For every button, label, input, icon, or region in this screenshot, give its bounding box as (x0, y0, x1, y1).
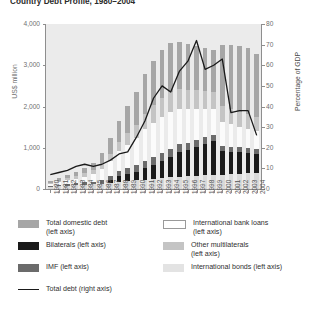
legend-label: International bonds (left axis) (191, 263, 282, 272)
x-tick (162, 190, 163, 193)
legend-bilaterals[interactable]: Bilaterals (left axis) (18, 241, 106, 250)
x-tick (179, 190, 180, 193)
legend-label: IMF (left axis) (46, 263, 89, 272)
x-tick-label: 2004 (259, 180, 266, 194)
legend-swatch (18, 220, 39, 228)
legend-label: Bilaterals (left axis) (46, 241, 106, 250)
legend-total-debt-line[interactable]: Total debt (right axis) (18, 285, 112, 294)
x-tick (205, 190, 206, 193)
chart-figure: Country Debt Profile, 1980–2004 4,0003,0… (0, 0, 314, 317)
x-tick (128, 190, 129, 193)
legend-swatch (18, 242, 39, 250)
legend-swatch (163, 220, 186, 229)
x-tick (257, 190, 258, 193)
legend-swatch (163, 264, 184, 272)
legend-imf[interactable]: IMF (left axis) (18, 263, 89, 272)
x-tick (231, 190, 232, 193)
x-tick (50, 190, 51, 193)
x-tick (248, 190, 249, 193)
x-tick (214, 190, 215, 193)
x-tick (171, 190, 172, 193)
x-tick (188, 190, 189, 193)
x-tick (145, 190, 146, 193)
legend-international-bank-loans[interactable]: International bank loans(left axis) (163, 219, 268, 236)
legend-swatch (163, 242, 184, 250)
legend-swatch (18, 264, 39, 272)
legend-label: Total debt (right axis) (46, 285, 112, 294)
x-tick (59, 190, 60, 193)
x-tick (119, 190, 120, 193)
x-tick (240, 190, 241, 193)
legend-line-swatch (18, 285, 39, 293)
x-tick (68, 190, 69, 193)
legend-international-bonds[interactable]: International bonds (left axis) (163, 263, 282, 272)
x-tick (197, 190, 198, 193)
x-tick (111, 190, 112, 193)
legend-label: International bank loans(left axis) (193, 219, 268, 236)
x-tick (76, 190, 77, 193)
x-tick (102, 190, 103, 193)
legend-total-domestic-debt[interactable]: Total domestic debt(left axis) (18, 219, 107, 236)
x-tick (136, 190, 137, 193)
line-total-debt (50, 41, 256, 175)
legend-label: Total domestic debt(left axis) (46, 219, 107, 236)
x-tick (85, 190, 86, 193)
legend-label: Other multilaterals(left axis) (191, 241, 249, 258)
x-tick (222, 190, 223, 193)
x-tick (154, 190, 155, 193)
legend-other-multilaterals[interactable]: Other multilaterals(left axis) (163, 241, 249, 258)
x-tick (93, 190, 94, 193)
